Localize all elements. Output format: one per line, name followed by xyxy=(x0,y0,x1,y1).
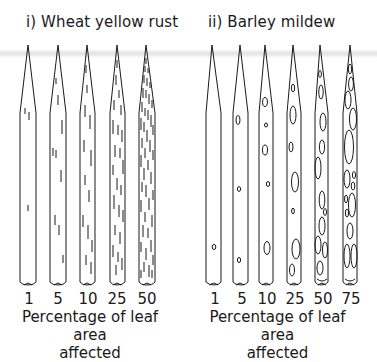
wheat-level-50: 50 xyxy=(132,290,162,308)
barley-level-25: 25 xyxy=(280,290,310,308)
barley-caption-line2: affected xyxy=(205,344,350,362)
wheat-leaf-25 xyxy=(110,45,125,285)
wheat-caption-line1: Percentage of leaf area xyxy=(20,308,160,344)
wheat-leaves xyxy=(20,45,155,285)
wheat-axis-caption: Percentage of leaf area affected xyxy=(20,308,160,362)
barley-leaf-75 xyxy=(343,45,357,285)
barley-level-75: 75 xyxy=(336,290,366,308)
barley-level-10: 10 xyxy=(252,290,282,308)
barley-leaf-10 xyxy=(259,45,273,285)
wheat-level-25: 25 xyxy=(102,290,132,308)
barley-leaf-5 xyxy=(233,45,248,285)
barley-leaf-1 xyxy=(206,45,221,285)
barley-axis-caption: Percentage of leaf area affected xyxy=(205,308,350,362)
barley-leaf-50 xyxy=(315,45,328,285)
wheat-leaf-10 xyxy=(80,45,95,285)
barley-level-1: 1 xyxy=(200,290,230,308)
barley-caption-line1: Percentage of leaf area xyxy=(205,308,350,344)
wheat-level-10: 10 xyxy=(73,290,103,308)
wheat-leaf-1 xyxy=(20,45,36,285)
barley-leaves xyxy=(206,45,357,285)
barley-leaf-25 xyxy=(287,45,301,285)
wheat-level-1: 1 xyxy=(14,290,44,308)
wheat-level-5: 5 xyxy=(43,290,73,308)
barley-level-50: 50 xyxy=(308,290,338,308)
wheat-leaf-50 xyxy=(139,45,155,285)
wheat-leaf-5 xyxy=(50,45,66,285)
wheat-caption-line2: affected xyxy=(20,344,160,362)
